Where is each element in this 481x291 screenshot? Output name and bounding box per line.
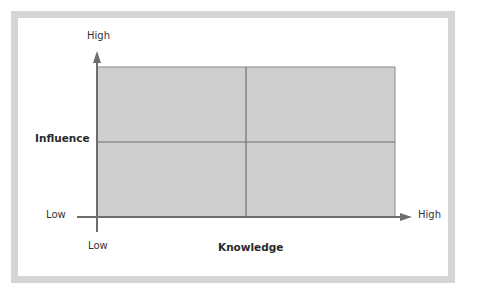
x-axis-low-label: Low [88, 240, 108, 251]
quadrant-top-left [97, 67, 246, 142]
y-axis-arrow-icon [93, 51, 101, 63]
x-axis-high-label: High [418, 209, 441, 220]
x-axis-arrow-icon [400, 213, 412, 221]
quadrant-top-right [246, 67, 395, 142]
y-axis-high-label: High [87, 30, 110, 41]
quadrant-bottom-left [97, 142, 246, 217]
y-axis-low-label: Low [46, 209, 66, 220]
x-axis-title: Knowledge [218, 241, 283, 253]
quadrant-bottom-right [246, 142, 395, 217]
y-axis-title: Influence [35, 132, 90, 144]
